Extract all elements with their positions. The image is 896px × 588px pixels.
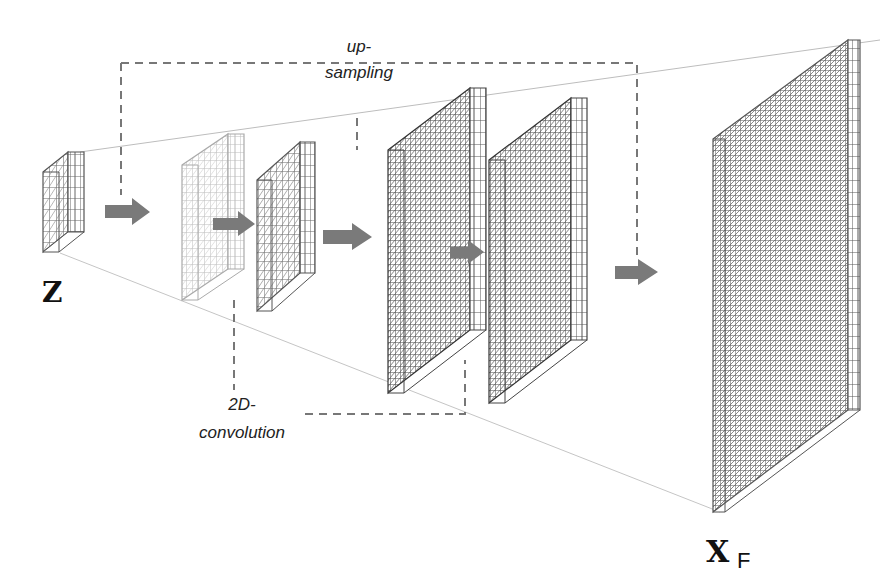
- output-label-x: X: [706, 534, 730, 569]
- output-label-subscript: F: [737, 548, 750, 573]
- tensor-upsampled-2: [388, 88, 486, 393]
- conv-label-line2: convolution: [199, 423, 285, 442]
- input-label-z: Z: [42, 276, 62, 309]
- network-diagram: up- sampling 2D- convolution Z X F: [0, 0, 896, 588]
- conv-bracket: [305, 360, 465, 414]
- upsampling-label-line2: sampling: [325, 63, 394, 82]
- tensor-conv-2: [489, 98, 587, 403]
- tensor-upsampled-1: [182, 134, 244, 300]
- tensor-conv-1: [257, 142, 315, 311]
- arrow-icon-5: [615, 259, 658, 285]
- arrow-icon-1: [105, 198, 150, 225]
- arrow-icon-3: [323, 223, 372, 250]
- tensor-output-xf: [713, 40, 860, 512]
- upsampling-label-line1: up-: [347, 37, 372, 56]
- tensor-z: [43, 152, 84, 252]
- conv-label-line1: 2D-: [227, 395, 256, 414]
